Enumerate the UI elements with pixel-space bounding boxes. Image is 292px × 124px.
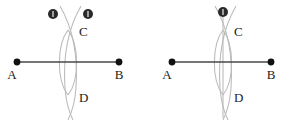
label-a-right: A [162,67,172,82]
label-d-right: D [234,90,243,105]
endpoint-b-left [116,59,123,66]
compass-marker-1b-left [83,9,93,19]
geometry-figure-canvas: A B C D A B C D [0,0,292,124]
endpoint-b-right [268,59,275,66]
label-b-left: B [115,67,124,82]
label-d-left: D [79,90,88,105]
label-a-left: A [7,67,17,82]
endpoint-a-right [169,59,176,66]
compass-marker-1a-left [48,9,58,19]
label-c-left: C [79,24,88,39]
label-b-right: B [267,67,276,82]
compass-marker-2-right [218,7,228,17]
label-c-right: C [234,24,243,39]
endpoint-a-left [14,59,21,66]
